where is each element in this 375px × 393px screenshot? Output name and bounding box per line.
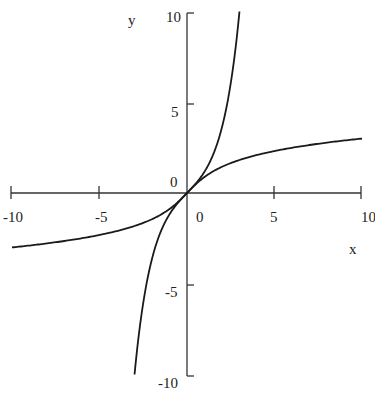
y-tick-label: -5 xyxy=(165,284,178,300)
y-tick-label: 10 xyxy=(166,9,181,25)
x-tick-label: -5 xyxy=(95,209,108,225)
x-tick-label: 5 xyxy=(270,209,278,225)
x-axis-label: x xyxy=(349,241,357,257)
y-ticks xyxy=(187,13,194,376)
chart-canvas: -10 -5 0 5 10 10 5 0 -5 -10 y x xyxy=(0,0,375,393)
y-tick-label: -10 xyxy=(158,375,178,391)
y-tick-label: 0 xyxy=(170,174,178,190)
x-tick-label: 0 xyxy=(196,209,204,225)
x-tick-label: 10 xyxy=(361,209,375,225)
x-tick-label: -10 xyxy=(3,209,23,225)
y-tick-label: 5 xyxy=(171,104,179,120)
y-axis-label: y xyxy=(128,12,136,28)
